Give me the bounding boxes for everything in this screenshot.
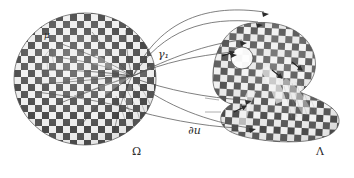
target-domain-lambda <box>205 14 354 150</box>
figure-canvas: μ γ₁ ∂u Ω Λ <box>0 0 354 178</box>
blob-edge-ticks <box>205 98 221 112</box>
label-mu: μ <box>44 31 50 40</box>
lambda-hole <box>231 47 253 69</box>
arrowhead-1 <box>262 12 269 17</box>
label-omega: Ω <box>132 146 141 157</box>
source-domain-omega <box>8 8 168 154</box>
label-partial-u: ∂u <box>188 125 201 136</box>
label-lambda: Λ <box>316 146 324 157</box>
label-gamma-1: γ₁ <box>158 49 169 60</box>
figure-svg <box>0 0 354 178</box>
